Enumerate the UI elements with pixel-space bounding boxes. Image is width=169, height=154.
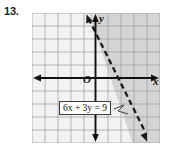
equation-text: 6x + 3y = 9 [63, 103, 107, 113]
origin-label: O [83, 74, 91, 85]
y-axis-label: y [99, 13, 104, 24]
equation-label-box: 6x + 3y = 9 [59, 101, 111, 115]
x-axis-label: x [153, 76, 159, 87]
